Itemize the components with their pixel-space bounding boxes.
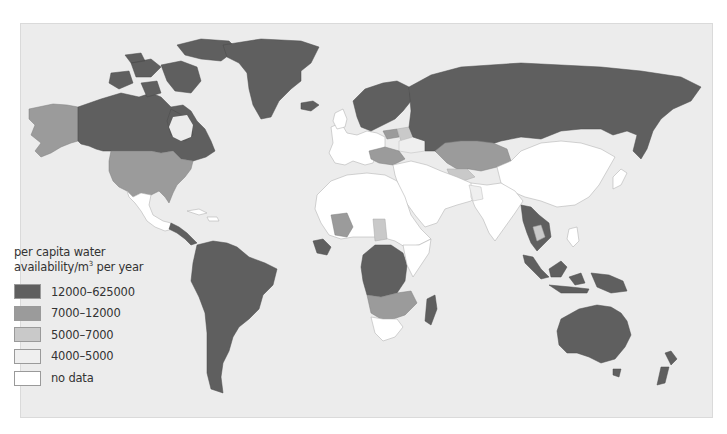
region-central-africa xyxy=(361,245,407,297)
region-canada-arctic xyxy=(109,39,237,97)
legend-title-suffix: per year xyxy=(93,260,143,274)
region-central-america xyxy=(169,223,197,245)
region-south-america xyxy=(191,241,277,393)
legend-item-no-data: no data xyxy=(14,367,143,389)
region-baltics xyxy=(383,129,399,139)
region-indonesia xyxy=(523,255,627,293)
region-australia xyxy=(557,305,631,363)
region-alaska xyxy=(29,104,78,157)
legend-item-5000-7000: 5000–7000 xyxy=(14,324,143,346)
region-scandinavia xyxy=(353,81,411,131)
region-madagascar xyxy=(425,295,437,325)
legend-swatch xyxy=(14,284,41,299)
region-japan xyxy=(613,169,627,189)
region-iceland xyxy=(301,101,319,111)
legend-label: no data xyxy=(51,371,93,385)
legend-swatch xyxy=(14,371,41,386)
legend-title-line1: per capita water xyxy=(14,246,143,258)
legend-swatch xyxy=(14,349,41,364)
legend-swatch xyxy=(14,306,41,321)
legend-item-7000-12000: 7000–12000 xyxy=(14,302,143,324)
region-philippines xyxy=(567,227,579,247)
region-caribbean xyxy=(187,209,219,221)
legend-swatch xyxy=(14,327,41,342)
legend-label: 7000–12000 xyxy=(51,306,121,320)
legend-label: 5000–7000 xyxy=(51,328,113,342)
region-south-africa xyxy=(371,317,403,341)
region-new-zealand xyxy=(657,351,677,385)
legend-label: 12000–625000 xyxy=(51,285,135,299)
legend-title-unit: availability/m xyxy=(14,260,89,274)
legend-title: per capita water availability/m3 per yea… xyxy=(14,246,143,273)
region-east-africa xyxy=(403,239,431,277)
legend-item-12000-625000: 12000–625000 xyxy=(14,281,143,303)
region-west-africa xyxy=(313,239,331,255)
region-tasmania xyxy=(613,369,621,377)
legend-item-4000-5000: 4000–5000 xyxy=(14,346,143,368)
legend-label: 4000–5000 xyxy=(51,349,113,363)
region-chad xyxy=(373,219,387,241)
map-legend: per capita water availability/m3 per yea… xyxy=(14,246,143,389)
legend-title-line2: availability/m3 per year xyxy=(14,258,143,273)
